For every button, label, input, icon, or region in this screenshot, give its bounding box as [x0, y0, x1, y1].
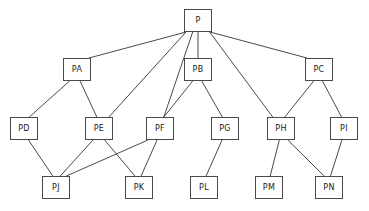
node-label: P — [195, 17, 200, 25]
node-label: PB — [193, 66, 204, 74]
graph-edge-pc-ph — [285, 81, 314, 117]
graph-node-pc[interactable]: PC — [305, 58, 333, 81]
graph-node-pf[interactable]: PF — [146, 117, 174, 140]
node-label: PA — [72, 66, 82, 74]
diagram-canvas: PPAPBPCPDPEPFPGPHPIPJPKPLPMPN — [0, 0, 369, 211]
graph-edge-pb-pg — [202, 81, 223, 117]
node-label: PN — [323, 184, 334, 192]
graph-edge-pe-pj — [60, 140, 93, 176]
graph-node-pk[interactable]: PK — [125, 176, 153, 199]
graph-node-pj[interactable]: PJ — [42, 176, 70, 199]
graph-node-pg[interactable]: PG — [211, 117, 239, 140]
graph-edge-pa-pd — [29, 81, 69, 117]
graph-edge-pf-pj — [66, 140, 148, 176]
node-label: PH — [275, 125, 286, 133]
graph-edge-ph-pn — [288, 140, 324, 176]
graph-node-pl[interactable]: PL — [190, 176, 218, 199]
graph-edge-p-pc — [210, 32, 307, 58]
graph-node-pm[interactable]: PM — [255, 176, 283, 199]
graph-edge-p-ph — [210, 32, 273, 117]
node-label: PK — [134, 184, 145, 192]
graph-edge-pi-pn — [331, 140, 342, 176]
graph-edge-pg-pl — [206, 140, 222, 176]
node-label: PE — [94, 125, 104, 133]
graph-edge-pd-pj — [28, 140, 52, 176]
node-label: PG — [219, 125, 231, 133]
graph-node-pa[interactable]: PA — [63, 58, 91, 81]
graph-edge-ph-pm — [270, 140, 279, 176]
graph-edge-pc-pi — [323, 81, 342, 117]
graph-edge-pf-pk — [141, 140, 157, 176]
node-label: PJ — [52, 184, 60, 192]
node-label: PD — [18, 125, 30, 133]
node-label: PM — [263, 184, 275, 192]
graph-edge-pa-pe — [80, 81, 97, 117]
graph-edge-pb-pf — [164, 81, 193, 117]
node-label: PC — [313, 66, 324, 74]
node-label: PL — [199, 184, 209, 192]
graph-node-pi[interactable]: PI — [330, 117, 358, 140]
node-label: PF — [155, 125, 165, 133]
graph-edge-pe-pk — [105, 140, 135, 176]
graph-node-pn[interactable]: PN — [315, 176, 343, 199]
graph-node-pe[interactable]: PE — [85, 117, 113, 140]
graph-edge-p-pa — [89, 32, 186, 58]
graph-node-pb[interactable]: PB — [184, 58, 212, 81]
graph-node-pd[interactable]: PD — [10, 117, 38, 140]
graph-node-ph[interactable]: PH — [267, 117, 295, 140]
graph-node-p[interactable]: P — [184, 9, 212, 32]
node-label: PI — [340, 125, 348, 133]
